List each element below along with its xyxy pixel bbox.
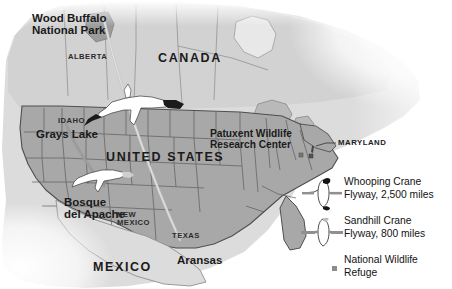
label-maryland: MARYLAND bbox=[338, 139, 386, 147]
whooping-crane-flyway-icon bbox=[300, 176, 344, 212]
label-idaho: IDAHO bbox=[58, 117, 85, 125]
legend-sandhill-crane-text: Sandhill Crane Flyway, 800 miles bbox=[344, 215, 425, 240]
legend-refuge-line1: National Wildlife bbox=[344, 254, 418, 267]
label-alberta: ALBERTA bbox=[68, 53, 107, 61]
legend-item-whooping-crane: Whooping Crane Flyway, 2,500 miles bbox=[300, 176, 434, 212]
label-mexico: MEXICO bbox=[93, 261, 152, 274]
label-canada: CANADA bbox=[158, 52, 222, 65]
legend-whooping-crane-line1: Whooping Crane bbox=[344, 176, 434, 189]
crane-migration-map: Wood Buffalo National Park ALBERTA CANAD… bbox=[0, 0, 452, 289]
label-bosque-del-apache: Bosque del Apache bbox=[64, 196, 125, 220]
label-patuxent-line2: Research Center bbox=[210, 140, 292, 151]
label-patuxent-wildlife-research-center: Patuxent Wildlife Research Center bbox=[210, 129, 292, 150]
label-aransas: Aransas bbox=[177, 254, 222, 266]
legend-whooping-crane-line2: Flyway, 2,500 miles bbox=[344, 189, 434, 202]
label-united-states: UNITED STATES bbox=[106, 151, 224, 164]
label-texas: TEXAS bbox=[172, 232, 200, 240]
label-bosque-line2: del Apache bbox=[64, 208, 125, 220]
label-wood-buffalo-line1: Wood Buffalo bbox=[32, 12, 107, 24]
sandhill-crane-flyway-icon bbox=[300, 215, 344, 251]
legend-sandhill-crane-line2: Flyway, 800 miles bbox=[344, 228, 425, 241]
legend-sandhill-crane-line1: Sandhill Crane bbox=[344, 215, 425, 228]
label-wood-buffalo-line2: National Park bbox=[32, 24, 107, 36]
label-bosque-line1: Bosque bbox=[64, 196, 125, 208]
label-new-mexico-line2: MEXICO bbox=[117, 219, 150, 227]
refuge-square-icon bbox=[300, 254, 344, 280]
label-grays-lake: Grays Lake bbox=[36, 128, 98, 140]
map-legend: Whooping Crane Flyway, 2,500 miles Sandh… bbox=[300, 176, 450, 286]
legend-refuge-text: National Wildlife Refuge bbox=[344, 254, 418, 279]
legend-refuge-line2: Refuge bbox=[344, 267, 418, 280]
label-wood-buffalo-national-park: Wood Buffalo National Park bbox=[32, 12, 107, 36]
label-new-mexico: NEW MEXICO bbox=[117, 211, 150, 227]
legend-item-sandhill-crane: Sandhill Crane Flyway, 800 miles bbox=[300, 215, 425, 251]
legend-whooping-crane-text: Whooping Crane Flyway, 2,500 miles bbox=[344, 176, 434, 201]
legend-item-national-wildlife-refuge: National Wildlife Refuge bbox=[300, 254, 418, 280]
